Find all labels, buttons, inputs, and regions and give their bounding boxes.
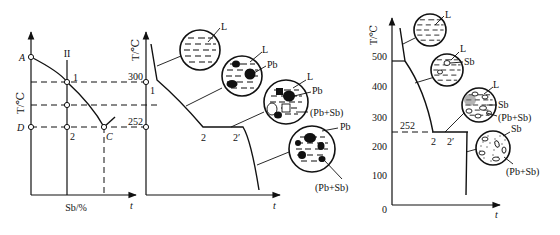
- x-axis-label: Sb/%: [65, 202, 87, 213]
- label-2: 2: [431, 136, 436, 147]
- micrograph-sb-eutectic: Sb (Pb+Sb): [476, 123, 539, 178]
- label-d: D: [16, 122, 25, 133]
- label-1: 1: [73, 72, 78, 83]
- tick-300: 300: [372, 112, 387, 123]
- point-2: [64, 124, 69, 129]
- tick-200: 200: [372, 141, 387, 152]
- micrograph-liquid-sb: L Sb: [431, 43, 475, 86]
- panel-cooling-curve-pb: T/℃ t 300 252 1 2 2′ L L: [128, 21, 351, 211]
- leader-3: [445, 111, 466, 132]
- label-sb: Sb: [511, 123, 522, 134]
- label-c: C: [106, 131, 113, 142]
- y-axis-label: T/℃: [14, 92, 26, 114]
- point-d: [28, 124, 33, 129]
- point-252: [143, 124, 148, 129]
- temp-300: 300: [128, 71, 143, 82]
- micrograph-pb-eutectic: Pb (Pb+Sb): [289, 121, 351, 194]
- y-axis-label: T/℃: [368, 25, 379, 45]
- label-sb: Sb: [498, 99, 509, 110]
- tick-500: 500: [372, 51, 387, 62]
- temp-252: 252: [128, 116, 143, 127]
- label-l: L: [307, 71, 313, 82]
- label-l: L: [493, 79, 499, 90]
- label-2-prime: 2′: [447, 136, 454, 147]
- point-a: [28, 54, 33, 59]
- point-c: [101, 124, 106, 129]
- label-1: 1: [150, 85, 155, 96]
- label-a: A: [18, 52, 26, 63]
- x-axis-label: t: [495, 209, 498, 220]
- time-label: t: [130, 200, 133, 211]
- tick-400: 400: [372, 81, 387, 92]
- label-2: 2: [201, 132, 206, 143]
- label-l: L: [445, 9, 451, 20]
- point-mid: [64, 102, 69, 107]
- label-eutectic: (Pb+Sb): [310, 107, 343, 119]
- label-l: L: [221, 21, 227, 32]
- leader-4: [257, 152, 289, 165]
- label-pb: Pb: [267, 59, 278, 70]
- leader-1: [403, 38, 415, 44]
- micrograph-liquid-sb-eutectic: L Sb (Pb+Sb): [462, 79, 531, 124]
- tick-100: 100: [372, 170, 387, 181]
- eutectic-label: 252: [400, 120, 415, 131]
- micrograph-liquid: L: [180, 21, 227, 70]
- x-axis-label: t: [273, 200, 276, 211]
- y-axis-label: T/℃: [129, 39, 141, 61]
- panel-cooling-curve-sb: T/℃ t 500 400 300 200 100 0 252 2 2′ L: [368, 9, 539, 220]
- leader-1: [157, 56, 181, 66]
- y-ticks: 500 400 300 200 100 0: [372, 51, 387, 215]
- label-l: L: [262, 44, 268, 55]
- leader-3: [231, 112, 264, 127]
- label-pb: Pb: [312, 85, 323, 96]
- label-pb: Pb: [340, 121, 351, 132]
- label-eutectic: (Pb+Sb): [506, 166, 539, 178]
- point-300: [143, 79, 148, 84]
- tick-0: 0: [382, 204, 387, 215]
- micrograph-liquid: L: [414, 9, 451, 46]
- label-eutectic: (Pb+Sb): [315, 182, 348, 194]
- micrograph-liquid-pb-eutectic: L Pb (Pb+Sb): [264, 71, 343, 124]
- label-2-prime: 2′: [233, 132, 240, 143]
- point-1: [64, 79, 69, 84]
- leader-2: [186, 88, 222, 106]
- label-l: L: [460, 43, 466, 54]
- label-2: 2: [70, 131, 75, 142]
- alloy-label: II: [64, 48, 71, 59]
- phase-diagram-figure: T/℃ Sb/% t II A D 1 2 C T/℃ t 300 252: [0, 0, 560, 235]
- label-sb: Sb: [464, 56, 475, 67]
